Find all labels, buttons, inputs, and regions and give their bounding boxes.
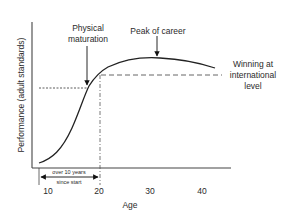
performance-curve — [39, 58, 215, 163]
span-label-1: over 10 years — [52, 169, 86, 175]
peak-of-career-label: Peak of career — [130, 26, 185, 36]
x-axis-label: Age — [122, 200, 137, 210]
performance-age-diagram: Physical maturation Peak of career Winni… — [0, 0, 288, 221]
winning-label-3: level — [244, 81, 262, 91]
winning-label-2: international — [230, 70, 276, 80]
x-tick-40: 40 — [197, 186, 207, 196]
x-tick-30: 30 — [145, 186, 155, 196]
winning-label-1: Winning at — [233, 59, 274, 69]
physical-maturation-label-1: Physical — [72, 23, 104, 33]
physical-maturation-label-2: maturation — [68, 34, 108, 44]
span-label-2: since start — [56, 179, 82, 185]
y-axis-label: Performance (adult standards) — [16, 37, 26, 152]
x-tick-20: 20 — [94, 186, 104, 196]
x-tick-10: 10 — [43, 186, 53, 196]
